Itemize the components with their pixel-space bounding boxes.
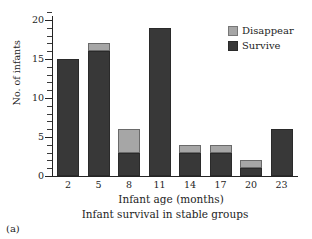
bar-group[interactable] (118, 129, 140, 176)
bar-segment-disappear[interactable] (240, 160, 262, 168)
bar-segment-survive[interactable] (271, 129, 293, 176)
bar-group[interactable] (240, 160, 262, 176)
y-tick-minor (47, 36, 52, 37)
bar-segment-survive[interactable] (118, 153, 140, 176)
legend-label: Disappear (242, 26, 294, 36)
bar-group[interactable] (179, 145, 201, 176)
x-tick-label: 23 (263, 180, 301, 190)
y-tick-minor (47, 114, 52, 115)
y-tick-label: 20 (0, 15, 55, 25)
bar-group[interactable] (210, 145, 232, 176)
y-tick-minor (47, 168, 52, 169)
legend-swatch-icon (228, 41, 238, 51)
legend-label: Survive (242, 41, 281, 51)
bar-segment-survive[interactable] (179, 153, 201, 176)
y-tick-minor (47, 28, 52, 29)
y-tick-minor (47, 12, 52, 13)
chart-legend: DisappearSurvive (228, 24, 308, 54)
x-axis-title: Infant age (months) (40, 194, 302, 205)
bar-segment-survive[interactable] (88, 51, 110, 176)
bar-segment-disappear[interactable] (179, 145, 201, 153)
y-tick-label: 15 (0, 54, 55, 64)
y-tick-minor (47, 160, 52, 161)
bar-group[interactable] (271, 129, 293, 176)
panel-label: (a) (6, 224, 20, 234)
bar-group[interactable] (88, 43, 110, 176)
bar-segment-survive[interactable] (149, 28, 171, 176)
x-axis-line (52, 176, 298, 177)
y-tick-minor (47, 106, 52, 107)
legend-swatch-icon (228, 26, 238, 36)
y-tick-label: 0 (0, 171, 55, 181)
bar-segment-survive[interactable] (240, 168, 262, 176)
bar-group[interactable] (149, 28, 171, 176)
y-tick-label: 5 (0, 132, 55, 142)
legend-item[interactable]: Disappear (228, 24, 308, 37)
y-tick-minor (47, 153, 52, 154)
y-tick-minor (47, 51, 52, 52)
y-tick-minor (47, 129, 52, 130)
y-tick-minor (47, 82, 52, 83)
bar-segment-disappear[interactable] (210, 145, 232, 153)
bar-segment-disappear[interactable] (118, 129, 140, 152)
y-tick-minor (47, 145, 52, 146)
bar-segment-survive[interactable] (57, 59, 79, 176)
figure-panel-a: 05101520 2581114172023 No. of infants In… (0, 0, 312, 239)
y-tick-minor (47, 121, 52, 122)
y-tick-minor (47, 90, 52, 91)
bar-segment-survive[interactable] (210, 153, 232, 176)
y-axis-title: No. of infants (12, 25, 22, 121)
bar-segment-disappear[interactable] (88, 43, 110, 51)
y-tick-minor (47, 75, 52, 76)
bar-group[interactable] (57, 59, 79, 176)
y-tick-minor (47, 43, 52, 44)
legend-item[interactable]: Survive (228, 39, 308, 52)
figure-caption: Infant survival in stable groups (28, 209, 302, 220)
y-tick-minor (47, 67, 52, 68)
y-tick-label: 10 (0, 93, 55, 103)
